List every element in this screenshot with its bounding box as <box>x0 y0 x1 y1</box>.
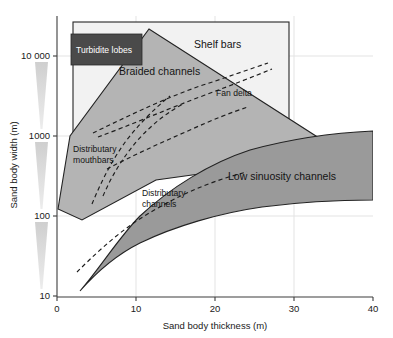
x-tick-label-0: 0 <box>54 303 59 314</box>
x-axis-ticks <box>57 297 373 301</box>
wedge-icon-lower <box>35 222 48 289</box>
label-distributary-channels-line2: channels <box>142 199 176 209</box>
label-turbidite-lobes: Turbidite lobes <box>76 45 132 55</box>
y-axis-title: Sand body width (m) <box>8 121 19 208</box>
x-tick-label-30: 30 <box>289 303 300 314</box>
label-distributary-mouthbars-line1: Distributary <box>73 144 117 154</box>
x-tick-label-10: 10 <box>131 303 142 314</box>
sand-body-dimensions-chart: 10 000 1000 100 10 0 10 20 30 40 Sand bo… <box>0 0 393 338</box>
x-axis-title: Sand body thickness (m) <box>163 320 268 331</box>
wedge-icon-upper <box>35 62 48 129</box>
wedge-icon-middle <box>35 142 48 209</box>
y-tick-label-1000: 1000 <box>29 130 50 141</box>
y-tick-label-100: 100 <box>34 210 50 221</box>
label-distributary-mouthbars-line2: mouthbars <box>73 155 114 165</box>
y-axis-ticks <box>53 56 57 296</box>
x-tick-label-20: 20 <box>210 303 221 314</box>
x-tick-label-40: 40 <box>368 303 379 314</box>
label-low-sinuosity-channels: Low sinuosity channels <box>228 170 336 182</box>
y-tick-label-10000: 10 000 <box>21 50 50 61</box>
label-shelf-bars: Shelf bars <box>194 38 241 50</box>
label-braided-channels: Braided channels <box>119 65 200 77</box>
y-tick-label-10: 10 <box>39 290 50 301</box>
y-axis-wedges <box>35 62 48 289</box>
label-distributary-channels-line1: Distributary <box>142 188 186 198</box>
figure-root: 10 000 1000 100 10 0 10 20 30 40 Sand bo… <box>0 0 393 338</box>
label-fan-delta: Fan delta <box>216 88 252 98</box>
